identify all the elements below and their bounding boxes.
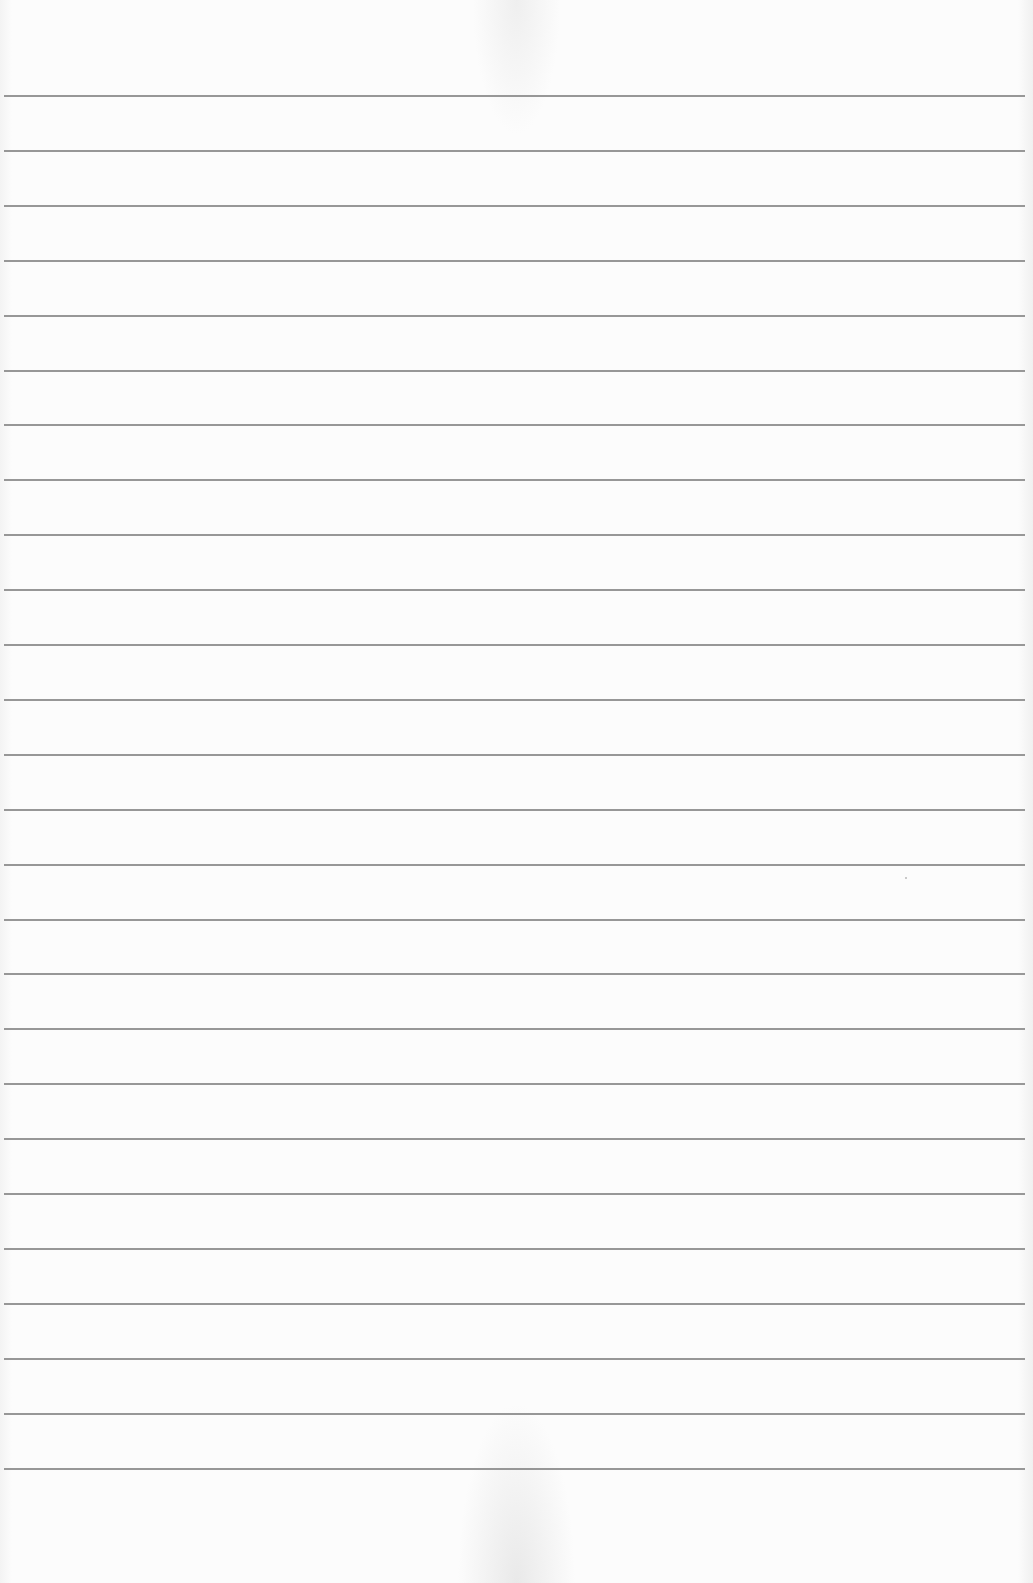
ruled-line bbox=[4, 1358, 1025, 1360]
ruled-line bbox=[4, 1468, 1025, 1470]
paper-speck bbox=[905, 877, 907, 879]
ruled-line bbox=[4, 864, 1025, 866]
ruled-line bbox=[4, 644, 1025, 646]
ruled-line bbox=[4, 95, 1025, 97]
ruled-line bbox=[4, 424, 1025, 426]
ruled-line bbox=[4, 1193, 1025, 1195]
ruled-line bbox=[4, 809, 1025, 811]
ruled-line bbox=[4, 973, 1025, 975]
ruled-line bbox=[4, 1083, 1025, 1085]
ruled-line bbox=[4, 1413, 1025, 1415]
ruled-line bbox=[4, 589, 1025, 591]
ruled-line bbox=[4, 1028, 1025, 1030]
ruled-line bbox=[4, 479, 1025, 481]
ruled-line bbox=[4, 370, 1025, 372]
ruled-line bbox=[4, 534, 1025, 536]
ruled-line bbox=[4, 150, 1025, 152]
ruled-line bbox=[4, 315, 1025, 317]
ruled-line bbox=[4, 205, 1025, 207]
ruled-paper-sheet bbox=[0, 0, 1033, 1583]
ruled-line bbox=[4, 699, 1025, 701]
ruled-line bbox=[4, 1138, 1025, 1140]
ruled-line bbox=[4, 919, 1025, 921]
ruled-line bbox=[4, 1303, 1025, 1305]
ruled-line bbox=[4, 1248, 1025, 1250]
ruled-line bbox=[4, 754, 1025, 756]
ruled-line bbox=[4, 260, 1025, 262]
